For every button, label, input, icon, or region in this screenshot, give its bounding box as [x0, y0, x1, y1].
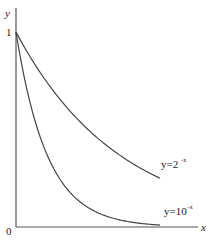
origin-label: 0: [6, 225, 12, 237]
y-tick-1: 1: [6, 26, 12, 38]
curve-10-pow-neg-x: [16, 32, 160, 225]
exponential-decay-chart: y x 1 0 y=2-x y=10-x: [0, 0, 216, 244]
label-2-pow-neg-x: y=2-x: [161, 157, 186, 170]
y-axis-label: y: [4, 7, 10, 19]
x-axis-label: x: [200, 221, 206, 233]
curve-2-pow-neg-x: [16, 32, 160, 178]
label-10-pow-neg-x: y=10-x: [164, 204, 193, 217]
